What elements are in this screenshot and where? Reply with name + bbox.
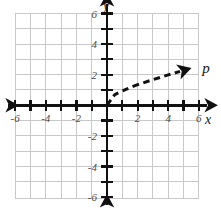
x-axis-label: x [204, 112, 212, 127]
graph-canvas: -6 -4 -2 2 4 6 6 4 2 -2 -4 -6 x y p [0, 0, 221, 212]
y-tick-label: 2 [92, 69, 98, 81]
coordinate-plane-figure: -6 -4 -2 2 4 6 6 4 2 -2 -4 -6 x y p [0, 0, 221, 212]
y-tick-label: 4 [92, 38, 98, 50]
x-tick-label: -2 [72, 112, 82, 124]
x-tick-label: -6 [11, 112, 21, 124]
y-tick-label: -6 [88, 191, 98, 203]
x-tick-label: -4 [41, 112, 51, 124]
x-tick-label: 4 [165, 112, 171, 124]
y-tick-label: -4 [88, 161, 98, 173]
y-tick-label: 6 [92, 8, 98, 20]
y-tick-label: -2 [88, 130, 98, 142]
y-axis-label: y [101, 0, 110, 13]
x-tick-label: 2 [135, 112, 141, 124]
curve-p-label: p [201, 60, 210, 76]
x-tick-label: 6 [196, 112, 202, 124]
